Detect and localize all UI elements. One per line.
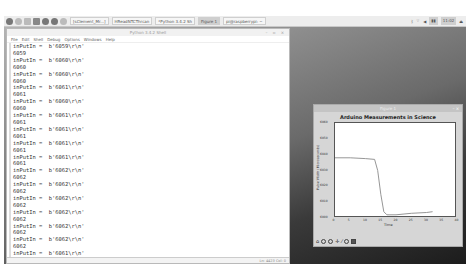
cpu-icon: ▮▮: [429, 17, 437, 25]
figure-toolbar: ⌂ ✛ ⁄: [316, 239, 356, 244]
shell-line: 6061: [13, 147, 289, 154]
taskbar: [sClement_Mr...] HReadNTCThrcan *Python …: [4, 16, 466, 27]
figure-title-bar[interactable]: Figure 1 – ×: [314, 105, 462, 112]
y-tick-label: 6050: [320, 136, 330, 140]
shell-line: inPutIn = b'6060\r\n': [13, 57, 289, 64]
y-tick-label: 6040: [320, 152, 330, 156]
shell-line: inPutIn = b'6062\r\n': [13, 167, 289, 174]
shell-status-bar: Ln: 4423 Col: 0: [7, 257, 289, 263]
line-series: [335, 123, 457, 218]
menu-edit[interactable]: Edit: [22, 36, 30, 42]
desktop: [sClement_Mr...] HReadNTCThrcan *Python …: [4, 16, 466, 264]
x-axis-label: Time: [384, 223, 393, 227]
shell-title-bar[interactable]: Python 3.4.2 Shell – ▫ ×: [7, 29, 289, 36]
shell-line: 6062: [13, 216, 289, 223]
back-icon[interactable]: [321, 239, 326, 244]
x-tick-label: 25: [409, 218, 413, 222]
menu-options[interactable]: Options: [64, 36, 79, 42]
shell-line: 6059: [13, 50, 289, 57]
shell-line: 6060: [13, 78, 289, 85]
x-tick-label: 40: [455, 218, 459, 222]
x-tick-label: 20: [394, 218, 398, 222]
shell-line: 6062: [13, 243, 289, 250]
y-tick-label: 6020: [320, 183, 330, 187]
shell-line: 6062: [13, 202, 289, 209]
system-tray: ᛒ ⌔ ◀ ▮▮ 11:02 ⏏: [411, 17, 466, 25]
pan-icon[interactable]: ✛: [335, 239, 339, 244]
circle-app-icon[interactable]: [60, 18, 67, 25]
y-tick-label: 6060: [320, 120, 330, 124]
terminal-icon[interactable]: [33, 18, 40, 25]
menu-shell[interactable]: Shell: [33, 36, 43, 42]
menu-windows[interactable]: Windows: [84, 36, 102, 42]
taskbar-task-python-shell[interactable]: *Python 3.4.2 Sh: [155, 17, 195, 25]
shell-line: 6060: [13, 105, 289, 112]
shell-line: inPutIn = b'6061\r\n': [13, 154, 289, 161]
shell-line: inPutIn = b'6062\r\n': [13, 209, 289, 216]
eject-icon[interactable]: ⏏: [459, 19, 463, 24]
plot-axes[interactable]: [334, 122, 456, 217]
figure-window-title: Figure 1: [380, 106, 396, 111]
wolfram-icon[interactable]: [51, 18, 58, 25]
shell-line: 6061: [13, 119, 289, 126]
taskbar-task-clement[interactable]: [sClement_Mr...]: [70, 17, 109, 25]
shell-line: inPutIn = b'6060\r\n': [13, 71, 289, 78]
taskbar-task-figure[interactable]: Figure 1: [198, 17, 220, 25]
shell-line: inPutIn = b'6061\r\n': [13, 126, 289, 133]
shell-line: 6062: [13, 174, 289, 181]
wifi-icon[interactable]: ⌔: [416, 18, 420, 24]
y-tick-label: 6010: [320, 199, 330, 203]
shell-line: inPutIn = b'6061\r\n': [13, 250, 289, 257]
bluetooth-icon[interactable]: ᛒ: [411, 19, 413, 24]
menu-debug[interactable]: Debug: [47, 36, 60, 42]
shell-line: 6060: [13, 64, 289, 71]
shell-line: inPutIn = b'6062\r\n': [13, 236, 289, 243]
shell-line: 6061: [13, 133, 289, 140]
shell-line: 6061: [13, 91, 289, 98]
figure-window: Figure 1 – × Arduino Measurements in Sci…: [313, 104, 463, 247]
configure-icon[interactable]: [344, 239, 349, 244]
shell-line: inPutIn = b'6062\r\n': [13, 223, 289, 230]
taskbar-task-terminal[interactable]: pi@raspberrypi: ~: [223, 17, 266, 25]
file-manager-icon[interactable]: [24, 18, 31, 25]
shell-line: 6061: [13, 160, 289, 167]
window-controls[interactable]: – ▫ ×: [265, 29, 286, 36]
x-tick-label: 35: [439, 218, 443, 222]
menu-file[interactable]: File: [11, 36, 18, 42]
volume-icon[interactable]: ◀: [423, 19, 426, 24]
taskbar-task-readntc[interactable]: HReadNTCThrcan: [112, 17, 153, 25]
shell-line: inPutIn = b'6061\r\n': [13, 140, 289, 147]
clock[interactable]: 11:02: [441, 17, 457, 25]
python-shell-window: Python 3.4.2 Shell – ▫ × File Edit Shell…: [6, 28, 290, 264]
shell-line: inPutIn = b'6062\r\n': [13, 181, 289, 188]
shell-line: inPutIn = b'6060\r\n': [13, 98, 289, 105]
shell-line: inPutIn = b'6059\r\n': [13, 43, 289, 50]
x-tick-label: 30: [424, 218, 428, 222]
mathematica-icon[interactable]: [42, 18, 49, 25]
shell-line: 6062: [13, 229, 289, 236]
shell-menubar: File Edit Shell Debug Options Windows He…: [7, 36, 289, 43]
x-tick-label: 15: [378, 218, 382, 222]
forward-icon[interactable]: [328, 239, 333, 244]
shell-title: Python 3.4.2 Shell: [130, 30, 166, 35]
x-tick-label: 5: [348, 218, 350, 222]
shell-line: 6062: [13, 188, 289, 195]
shell-line: inPutIn = b'6062\r\n': [13, 195, 289, 202]
figure-window-controls[interactable]: – ×: [452, 105, 459, 112]
y-tick-label: 6000: [320, 215, 330, 219]
globe-icon[interactable]: [15, 18, 22, 25]
menu-help[interactable]: Help: [106, 36, 115, 42]
x-tick-label: 10: [363, 218, 367, 222]
home-icon[interactable]: ⌂: [316, 239, 319, 244]
raspberry-menu-icon[interactable]: [6, 18, 13, 25]
zoom-icon[interactable]: ⁄: [341, 239, 342, 244]
plot-title: Arduino Measurements in Science: [314, 114, 462, 120]
shell-line: inPutIn = b'6061\r\n': [13, 112, 289, 119]
shell-line: inPutIn = b'6061\r\n': [13, 84, 289, 91]
x-tick-label: 0: [333, 218, 335, 222]
y-tick-label: 6030: [320, 168, 330, 172]
save-icon[interactable]: [351, 239, 356, 244]
shell-output[interactable]: inPutIn = b'6059\r\n'6059inPutIn = b'606…: [9, 43, 289, 257]
